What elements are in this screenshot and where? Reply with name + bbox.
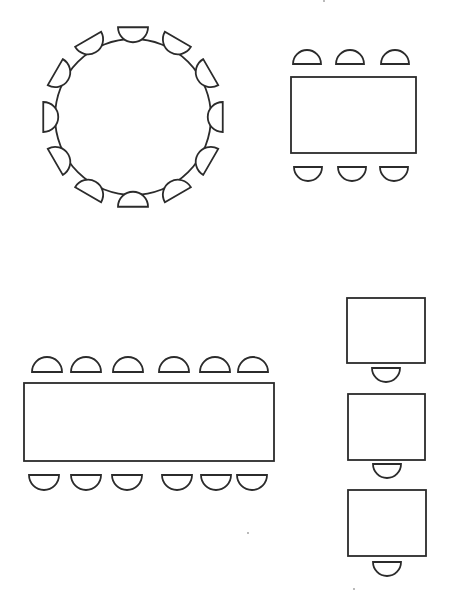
single-desk-chair — [373, 464, 401, 478]
seating-layout-diagram — [0, 0, 451, 598]
round-table-chair — [75, 180, 103, 202]
speck — [353, 588, 355, 590]
single-desk — [348, 490, 426, 556]
single-desk — [347, 298, 425, 363]
long-table-12-group — [24, 357, 274, 490]
round-table-chair — [196, 59, 218, 87]
round-table-chair — [48, 59, 70, 87]
long-table-chair-bottom — [237, 475, 267, 490]
long-table-chair-top — [200, 357, 230, 372]
single-desks-group — [347, 298, 426, 576]
round-table — [55, 39, 211, 195]
long-table-chair-bottom — [29, 475, 59, 490]
round-table-chair — [196, 147, 219, 175]
speck — [323, 0, 325, 2]
round-table-chair — [163, 180, 191, 202]
long-table-chair-bottom — [112, 475, 142, 490]
round-table-chair — [48, 147, 70, 175]
long-table-chair-bottom — [162, 475, 192, 490]
rect-table-chair-top — [293, 50, 321, 64]
rect-table-chair-bottom — [338, 167, 366, 181]
round-table-group — [43, 27, 223, 207]
long-table-chair-top — [71, 357, 101, 372]
single-desk-chair — [372, 368, 400, 382]
round-table-chair — [163, 32, 191, 54]
single-desk-chair — [373, 562, 401, 576]
round-table-chair — [75, 32, 103, 54]
long-table-chair-top — [159, 357, 189, 372]
speck — [247, 532, 249, 534]
single-desk — [348, 394, 425, 460]
long-table-chair-top — [113, 357, 143, 372]
rect-table-chair-bottom — [380, 167, 408, 181]
rect-table — [291, 77, 416, 153]
long-table-chair-top — [238, 357, 268, 372]
long-table — [24, 383, 274, 461]
rect-table-6-group — [291, 50, 416, 181]
rect-table-chair-top — [381, 50, 409, 64]
rect-table-chair-top — [336, 50, 364, 64]
rect-table-chair-bottom — [294, 167, 322, 181]
long-table-chair-bottom — [71, 475, 101, 490]
long-table-chair-top — [32, 357, 62, 372]
long-table-chair-bottom — [201, 475, 231, 490]
